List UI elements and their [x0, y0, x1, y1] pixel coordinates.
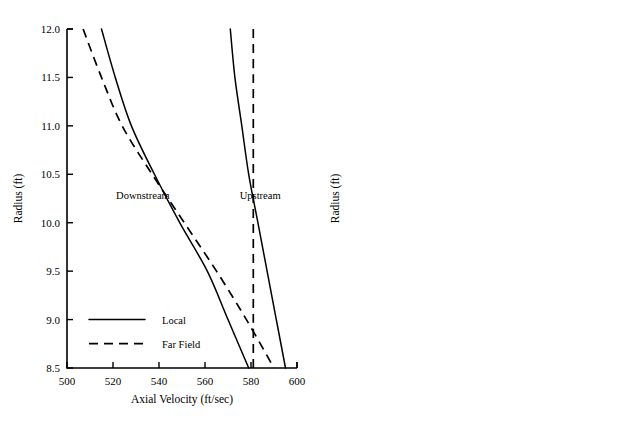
- y-tick-label: 9.0: [46, 314, 60, 326]
- legend-label: Far Field: [162, 339, 201, 350]
- chart-left-svg: 8.59.09.510.010.511.011.512.050052054056…: [0, 0, 316, 427]
- chart-panel-right: 8.59.09.510.010.511.011.512.050052054056…: [317, 0, 633, 427]
- x-tick-label: 580: [243, 375, 260, 387]
- x-tick-label: 500: [59, 375, 76, 387]
- x-tick-label: 520: [105, 375, 122, 387]
- x-axis-title: Axial Velocity (ft/sec): [131, 393, 233, 406]
- chart-right-svg: 8.59.09.510.010.511.011.512.050052054056…: [317, 0, 633, 427]
- figure-root: 8.59.09.510.010.511.011.512.050052054056…: [0, 0, 633, 427]
- y-axis-title: Radius (ft): [329, 174, 342, 224]
- y-tick-label: 10.5: [41, 168, 61, 180]
- y-axis-title: Radius (ft): [12, 174, 25, 224]
- y-tick-label: 12.0: [41, 23, 61, 35]
- y-tick-label: 11.5: [41, 71, 60, 83]
- x-tick-label: 600: [289, 375, 306, 387]
- y-tick-label: 10.0: [41, 217, 61, 229]
- y-tick-label: 8.5: [46, 362, 60, 374]
- y-tick-label: 9.5: [46, 265, 60, 277]
- chart-panel-left: 8.59.09.510.010.511.011.512.050052054056…: [0, 0, 316, 427]
- x-tick-label: 560: [197, 375, 214, 387]
- legend-label: Local: [162, 315, 186, 326]
- y-tick-label: 11.0: [41, 120, 60, 132]
- curve-annotation: Downstream: [116, 190, 170, 201]
- curve-annotation: Upstream: [240, 190, 281, 201]
- x-tick-label: 540: [151, 375, 168, 387]
